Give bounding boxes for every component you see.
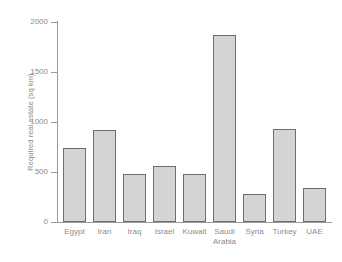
bar-chart: Required real estate (sq km) 20001500100… bbox=[0, 0, 342, 262]
bar bbox=[183, 174, 206, 222]
y-axis-tick-label: 1000 bbox=[8, 118, 48, 126]
bar bbox=[243, 194, 266, 222]
x-axis-line bbox=[57, 222, 332, 223]
y-axis-tick-label: 0 bbox=[8, 218, 48, 226]
bar bbox=[213, 35, 236, 223]
y-axis-tick bbox=[51, 222, 57, 223]
bar bbox=[303, 188, 326, 222]
y-axis-tick-label: 500 bbox=[8, 168, 48, 176]
y-axis-tick-label: 2000 bbox=[8, 18, 48, 26]
y-axis-tick-label: 1500 bbox=[8, 68, 48, 76]
x-axis-tick-label: UAE bbox=[297, 227, 332, 237]
bar bbox=[153, 166, 176, 222]
y-axis-tick bbox=[51, 172, 57, 173]
bar bbox=[63, 148, 86, 223]
bar bbox=[123, 174, 146, 222]
bar bbox=[273, 129, 296, 223]
y-axis-tick bbox=[51, 22, 57, 23]
y-axis-tick bbox=[51, 72, 57, 73]
y-axis-line bbox=[57, 21, 58, 223]
bar bbox=[93, 130, 116, 223]
y-axis-tick bbox=[51, 122, 57, 123]
